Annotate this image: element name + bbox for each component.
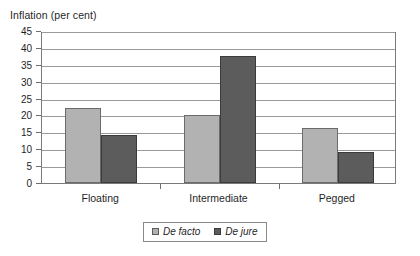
chart-legend: De facto De jure [143, 222, 267, 242]
bar-intermediate-de-jure [220, 56, 256, 183]
gridline [42, 66, 395, 67]
y-axis-tick-label: 0 [6, 179, 32, 189]
gridline [42, 49, 395, 50]
y-axis-tick-label: 15 [6, 128, 32, 138]
y-axis-tick-label: 40 [6, 44, 32, 54]
y-axis-tick-label: 5 [6, 162, 32, 172]
y-axis-tick-label: 10 [6, 145, 32, 155]
x-axis-label-floating: Floating [40, 192, 160, 204]
y-axis-tick-label: 25 [6, 95, 32, 105]
x-axis-label-pegged: Pegged [277, 192, 397, 204]
gridline [42, 32, 395, 33]
legend-entry-de-jure: De jure [214, 226, 257, 237]
legend-entry-de-facto: De facto [152, 226, 200, 237]
gridline [42, 100, 395, 101]
bar-pegged-de-jure [338, 152, 374, 183]
x-axis-separator [160, 184, 161, 189]
bar-floating-de-jure [101, 135, 137, 183]
legend-label-de-jure: De jure [225, 226, 257, 237]
x-axis-label-intermediate: Intermediate [159, 192, 279, 204]
x-axis-separator [279, 184, 280, 189]
bar-pegged-de-facto [302, 128, 338, 183]
y-axis-title: Inflation (per cent) [10, 9, 97, 21]
plot-area [41, 32, 396, 184]
y-axis-tick-label: 35 [6, 61, 32, 71]
y-axis-tick-label: 30 [6, 78, 32, 88]
y-axis-tick-label: 45 [6, 27, 32, 37]
legend-label-de-facto: De facto [163, 226, 200, 237]
y-axis-tick-label: 20 [6, 111, 32, 121]
bar-floating-de-facto [65, 108, 101, 183]
inflation-bar-chart: Inflation (per cent) 051015202530354045 … [0, 0, 420, 256]
bar-intermediate-de-facto [184, 115, 220, 183]
gridline [42, 83, 395, 84]
legend-swatch-de-jure [214, 228, 221, 235]
legend-swatch-de-facto [152, 228, 159, 235]
